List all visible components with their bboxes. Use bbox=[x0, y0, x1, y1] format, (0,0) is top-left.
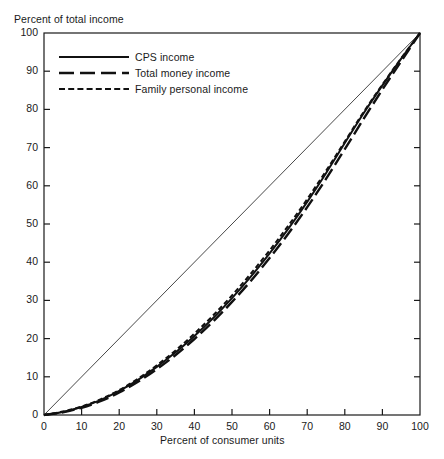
y-tick-label: 90 bbox=[12, 64, 38, 76]
legend-item: CPS income bbox=[58, 49, 288, 65]
legend-item: Family personal income bbox=[58, 81, 288, 97]
x-tick-label: 90 bbox=[369, 420, 395, 432]
x-tick-label: 60 bbox=[257, 420, 283, 432]
x-tick-label: 40 bbox=[181, 420, 207, 432]
tick-marks bbox=[44, 71, 420, 415]
x-tick-label: 0 bbox=[31, 420, 57, 432]
y-tick-label: 10 bbox=[12, 370, 38, 382]
chart-legend: CPS income Total money income Family per… bbox=[58, 49, 288, 97]
legend-label-family-personal-income: Family personal income bbox=[135, 83, 248, 95]
x-axis-title: Percent of consumer units bbox=[160, 434, 284, 446]
legend-sample-long-dash-icon bbox=[58, 67, 130, 79]
y-tick-label: 100 bbox=[12, 26, 38, 38]
x-tick-label: 100 bbox=[407, 420, 433, 432]
y-axis-title: Percent of total income bbox=[14, 13, 124, 25]
y-tick-label: 80 bbox=[12, 102, 38, 114]
y-tick-label: 70 bbox=[12, 141, 38, 153]
lorenz-curve-chart: Percent of total income Percent of consu… bbox=[0, 0, 444, 459]
y-tick-label: 30 bbox=[12, 293, 38, 305]
x-tick-label: 10 bbox=[69, 420, 95, 432]
legend-label-total-money-income: Total money income bbox=[135, 67, 230, 79]
y-tick-label: 0 bbox=[12, 408, 38, 420]
x-tick-label: 80 bbox=[332, 420, 358, 432]
legend-label-cps-income: CPS income bbox=[135, 51, 194, 63]
x-tick-label: 50 bbox=[219, 420, 245, 432]
legend-sample-solid-icon bbox=[58, 51, 130, 63]
y-tick-label: 40 bbox=[12, 255, 38, 267]
x-tick-label: 70 bbox=[294, 420, 320, 432]
x-tick-label: 30 bbox=[144, 420, 170, 432]
y-tick-label: 20 bbox=[12, 332, 38, 344]
legend-sample-short-dash-icon bbox=[58, 83, 130, 95]
y-tick-label: 50 bbox=[12, 217, 38, 229]
y-tick-label: 60 bbox=[12, 179, 38, 191]
x-tick-label: 20 bbox=[106, 420, 132, 432]
legend-item: Total money income bbox=[58, 65, 288, 81]
